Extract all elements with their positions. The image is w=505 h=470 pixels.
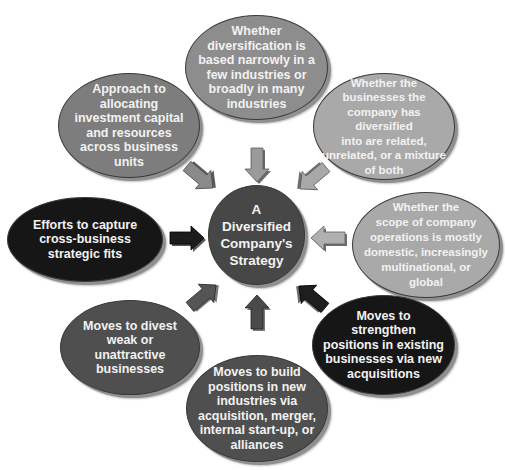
node-line: operations is mostly (364, 230, 488, 245)
node-line: Whether the (320, 76, 448, 91)
node-line: global (364, 275, 488, 290)
node-line: domestic, increasingly (364, 245, 488, 260)
node-line: few industries or (198, 68, 315, 83)
node-line: scope of company (364, 215, 488, 230)
arrow-left-icon (311, 226, 347, 252)
node-line: across business (74, 140, 183, 155)
center-line: Strategy (220, 252, 292, 269)
node-line: industries via (198, 394, 316, 409)
node-line: strategic fits (33, 247, 137, 262)
node-line: of both (320, 163, 448, 178)
node-line: strengthen (323, 323, 444, 338)
node-line: company has diversified (320, 105, 448, 134)
node-line: allocating (74, 97, 183, 112)
center-node-strategy: A Diversified Company's Strategy (208, 185, 305, 285)
center-line: A (220, 201, 292, 218)
node-line: positions in new (198, 380, 316, 395)
arrow-up-icon (245, 295, 271, 331)
node-line: units (74, 155, 183, 170)
node-line: diversification is (198, 39, 315, 54)
node-line: broadly in many (198, 82, 315, 97)
node-business-relatedness: Whether the businesses the company has d… (313, 73, 455, 180)
center-line: Company's (220, 235, 292, 252)
node-line: industries (198, 97, 315, 112)
node-line: unrelated, or a mixture (320, 148, 448, 163)
diversified-strategy-diagram: Whether diversification is based narrowl… (0, 0, 505, 470)
node-line: businesses via new (323, 352, 444, 367)
node-line: positions in existing (323, 338, 444, 353)
node-geographic-scope: Whether the scope of company operations … (352, 192, 500, 298)
node-strategic-fits: Efforts to capture cross-business strate… (7, 197, 163, 282)
node-strengthen-positions: Moves to strengthen positions in existin… (312, 295, 455, 395)
node-diversification-breadth: Whether diversification is based narrowl… (185, 15, 328, 120)
node-divest: Moves to divest weak or unattractive bus… (60, 300, 200, 395)
node-build-positions: Moves to build positions in new industri… (186, 355, 328, 462)
node-line: Whether the (364, 200, 488, 215)
node-line: Approach to (74, 82, 183, 97)
node-line: weak or (83, 333, 177, 348)
node-line: and resources (74, 126, 183, 141)
arrow-up-right-icon (182, 275, 226, 318)
node-line: based narrowly in a (198, 53, 315, 68)
node-line: businesses (83, 362, 177, 377)
node-line: Moves to (323, 309, 444, 324)
node-line: businesses the (320, 90, 448, 105)
node-line: Whether (198, 24, 315, 39)
node-line: cross-business (33, 232, 137, 247)
node-line: investment capital (74, 111, 183, 126)
node-line: Moves to build (198, 365, 316, 380)
node-line: multinational, or (364, 260, 488, 275)
node-capital-allocation: Approach to allocating investment capita… (58, 73, 200, 178)
node-line: unattractive (83, 348, 177, 363)
node-line: alliances (198, 438, 316, 453)
arrow-down-icon (245, 148, 271, 184)
center-line: Diversified (220, 218, 292, 235)
arrow-right-icon (170, 226, 206, 252)
arrow-down-right-icon (179, 155, 223, 198)
node-line: acquisition, merger, (198, 409, 316, 424)
node-line: internal start-up, or (198, 423, 316, 438)
node-line: acquisitions (323, 367, 444, 382)
node-line: into are related, (320, 134, 448, 149)
node-line: Moves to divest (83, 319, 177, 334)
node-line: Efforts to capture (33, 218, 137, 233)
